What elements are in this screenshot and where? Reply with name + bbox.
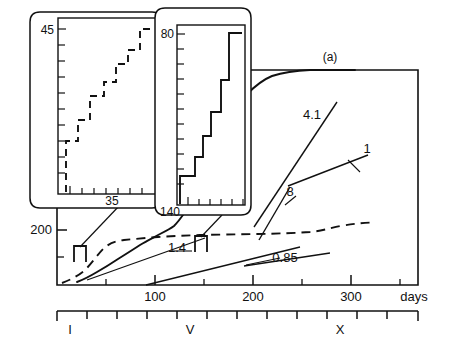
callout-marker-left <box>74 246 86 262</box>
x-axis-unit-label: days <box>400 289 428 304</box>
inset-left-border <box>30 12 162 208</box>
months-label-I: I <box>68 322 72 337</box>
figure-container: (a) 200 400 600 F <box>0 0 450 340</box>
chart-svg: (a) 200 400 600 F <box>0 0 450 340</box>
inset-left-leader <box>80 205 120 247</box>
y-tick-label-200: 200 <box>30 222 52 237</box>
series-label-8: 8 <box>286 184 293 199</box>
inset-left-x-label: 35 <box>105 194 119 208</box>
months-label-V: V <box>186 322 195 337</box>
series-label-1_4: 1.4 <box>168 240 186 255</box>
x-axis-major-ticks <box>155 275 351 285</box>
x-tick-label-200: 200 <box>242 289 264 304</box>
x-tick-label-300: 300 <box>340 289 362 304</box>
leader-line-1 <box>348 160 360 172</box>
series-label-1: 1 <box>363 141 370 156</box>
guide-line-1_4 <box>87 238 205 280</box>
series-label-4_1: 4.1 <box>303 107 321 122</box>
series-label-0_85: 0.85 <box>272 250 297 265</box>
panel-label: (a) <box>323 50 338 64</box>
inset-left: 45 35 <box>30 12 162 208</box>
guide-line-1 <box>288 155 368 186</box>
dashed-baseline-curve <box>62 223 372 284</box>
guide-line-4_1 <box>254 102 337 227</box>
inset-right-y-top-label: 80 <box>161 27 175 41</box>
callout-markers <box>74 236 207 262</box>
inset-right-x-label: 140 <box>160 205 180 219</box>
months-axis-line <box>57 311 418 321</box>
inset-left-y-top-label: 45 <box>41 23 55 37</box>
callout-marker-right <box>195 236 207 252</box>
x-axis: 100 200 300 days <box>106 275 428 304</box>
months-roman-axis: I V X <box>57 311 418 337</box>
x-tick-label-100: 100 <box>144 289 166 304</box>
months-label-X: X <box>336 322 345 337</box>
inset-right: 80 140 <box>155 8 251 219</box>
